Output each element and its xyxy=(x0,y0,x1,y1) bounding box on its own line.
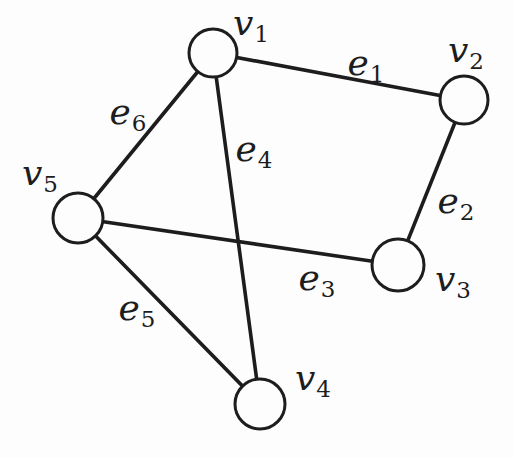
edge-e5-line xyxy=(78,218,260,404)
vertex-v5-circle xyxy=(53,193,103,243)
edge-e4-label: e4 xyxy=(236,128,273,173)
vertex-v2-label: v2 xyxy=(448,29,484,74)
vertex-v3-label: v3 xyxy=(435,258,471,303)
edge-e6-label: e6 xyxy=(110,91,147,136)
edge-e3-label: e3 xyxy=(299,257,336,302)
vertex-v1-circle xyxy=(189,29,237,77)
edge-e4-line xyxy=(213,53,260,404)
vertex-v3-circle xyxy=(372,239,424,291)
vertex-v2-circle xyxy=(440,76,488,124)
graph-diagram: e1e2e3e4e5e6v1v2v3v4v5 xyxy=(0,0,513,458)
graph-canvas: e1e2e3e4e5e6v1v2v3v4v5 xyxy=(0,0,513,458)
edge-e2-label: e2 xyxy=(438,180,475,225)
vertex-v4-circle xyxy=(235,379,285,429)
vertex-v4-label: v4 xyxy=(295,357,331,402)
vertex-v1-label: v1 xyxy=(233,2,269,47)
vertex-v5-label: v5 xyxy=(22,152,58,197)
edge-e1-line xyxy=(213,53,464,100)
edge-e1-label: e1 xyxy=(348,42,385,87)
